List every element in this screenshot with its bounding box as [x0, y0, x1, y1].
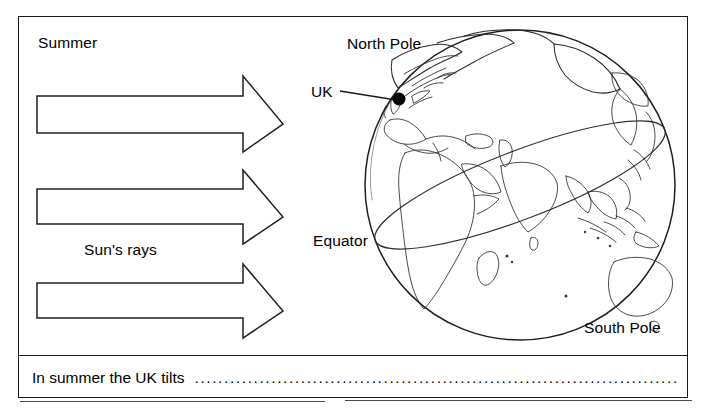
- section-divider: [18, 355, 688, 356]
- uk-label: UK: [311, 84, 333, 100]
- answer-dotted-line[interactable]: ........................................…: [194, 370, 680, 386]
- north-pole-label: North Pole: [347, 36, 421, 52]
- worksheet-page: Summer Sun's rays North Pole UK Equator …: [0, 0, 707, 413]
- south-pole-label: South Pole: [584, 320, 661, 336]
- answer-row: In summer the UK tilts .................…: [32, 366, 680, 390]
- scan-artifact-line-left: [20, 401, 325, 402]
- suns-rays-label: Sun's rays: [84, 242, 157, 258]
- season-label-summer: Summer: [38, 35, 97, 51]
- equator-label: Equator: [313, 233, 368, 249]
- answer-prompt: In summer the UK tilts: [32, 370, 184, 386]
- question-frame: [18, 16, 688, 398]
- scan-artifact-line-right: [345, 400, 692, 401]
